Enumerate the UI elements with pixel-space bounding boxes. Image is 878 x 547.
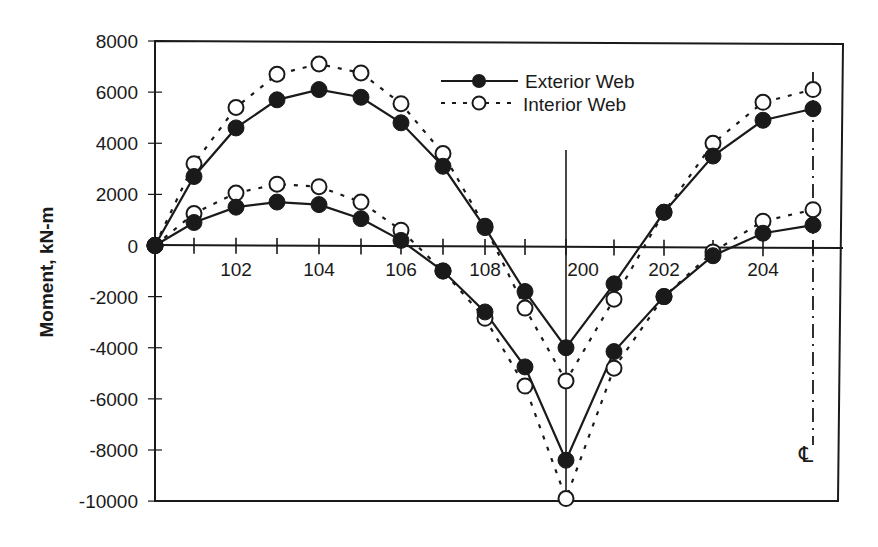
interior-web-point [312, 57, 327, 72]
exterior-web-point [186, 168, 202, 184]
y-axis-label: Moment, kN-m [36, 207, 57, 338]
interior-web-point [756, 95, 771, 110]
exterior-web-line [155, 202, 813, 460]
interior-web-point [270, 67, 285, 82]
legend-item-interior: Interior Web [441, 94, 626, 115]
interior-web-point [607, 292, 622, 307]
y-tick-label: -4000 [89, 338, 138, 359]
exterior-web-point [558, 452, 574, 468]
interior-web-point [518, 301, 533, 316]
x-tick-label: 202 [648, 259, 680, 280]
exterior-web-point [477, 220, 493, 236]
exterior-web-point [705, 148, 721, 164]
legend: Exterior Web Interior Web [441, 71, 634, 115]
y-tick-label: -6000 [89, 389, 138, 410]
x-tick-label: 106 [385, 259, 417, 280]
exterior-web-point [353, 89, 369, 105]
interior-web-point [312, 179, 327, 194]
y-tick-label: -10000 [79, 491, 138, 512]
moment-envelope-chart: 80006000400020000-2000-4000-6000-8000-10… [0, 0, 878, 547]
exterior-web-point [705, 248, 721, 264]
interior-web-point [559, 373, 574, 388]
y-tick-label: -8000 [89, 440, 138, 461]
exterior-web-point [147, 238, 163, 254]
interior-web-point [229, 100, 244, 115]
x-tick-label: 200 [567, 259, 599, 280]
exterior-web-point [435, 263, 451, 279]
y-tick-label: 6000 [96, 82, 138, 103]
y-tick-label: 4000 [96, 133, 138, 154]
y-axis-ticks: 80006000400020000-2000-4000-6000-8000-10… [79, 31, 162, 512]
interior-web-point [806, 82, 821, 97]
y-tick-label: 0 [127, 236, 138, 257]
x-axis-zero-line [155, 245, 843, 248]
exterior-web-point [517, 359, 533, 375]
series-layer [147, 57, 821, 507]
exterior-web-point [755, 225, 771, 241]
interior-web-point [270, 177, 285, 192]
interior-web-point [607, 361, 622, 376]
exterior-web-point [353, 211, 369, 227]
interior-web-point [806, 202, 821, 217]
exterior-web-point [435, 158, 451, 174]
legend-label-exterior: Exterior Web [525, 71, 634, 92]
exterior-web-point [269, 92, 285, 108]
exterior-web-point [656, 289, 672, 305]
exterior-web-point [606, 276, 622, 292]
interior-web-point [354, 65, 369, 80]
legend-item-exterior: Exterior Web [441, 71, 634, 92]
y-tick-label: 8000 [96, 31, 138, 52]
exterior-web-point [393, 115, 409, 131]
exterior-web-point [805, 101, 821, 117]
interior-web-point [394, 96, 409, 111]
interior-web-point [354, 195, 369, 210]
exterior-web-point [186, 214, 202, 230]
exterior-web-point [228, 199, 244, 215]
x-tick-label: 104 [303, 259, 335, 280]
exterior-web-point [269, 194, 285, 210]
filled-circle-marker-icon [472, 74, 486, 88]
exterior-web-point [558, 340, 574, 356]
exterior-web-point [393, 232, 409, 248]
exterior-web-point [805, 217, 821, 233]
exterior-web-point [656, 204, 672, 220]
exterior-web-point [755, 112, 771, 128]
exterior-web-point [311, 82, 327, 98]
interior-web-point [518, 379, 533, 394]
x-tick-label: 102 [220, 259, 252, 280]
exterior-web-point [517, 284, 533, 300]
x-tick-label: 204 [747, 259, 779, 280]
y-tick-label: -2000 [89, 287, 138, 308]
interior-web-point [559, 491, 574, 506]
exterior-web-point [606, 344, 622, 360]
interior-web-point [229, 186, 244, 201]
exterior-web-point [311, 197, 327, 213]
centerline-label: ℄ [798, 442, 814, 467]
exterior-web-point [477, 304, 493, 320]
open-circle-marker-icon [473, 97, 486, 110]
exterior-web-point [228, 120, 244, 136]
legend-label-interior: Interior Web [523, 94, 626, 115]
chart-canvas: 80006000400020000-2000-4000-6000-8000-10… [0, 0, 878, 547]
x-tick-label: 108 [469, 259, 501, 280]
y-tick-label: 2000 [96, 184, 138, 205]
